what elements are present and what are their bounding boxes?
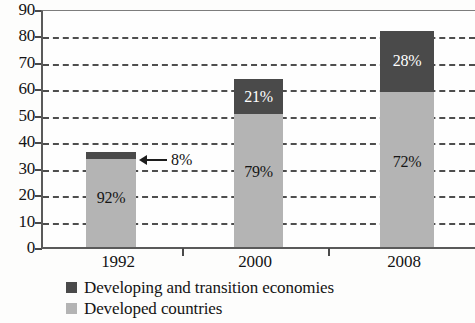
annotation-8-percent: 8% (139, 152, 192, 168)
bar-value-label: 79% (234, 164, 283, 180)
stacked-bar-chart: 90 80 70 60 50 40 30 20 (0, 0, 475, 323)
y-axis-tick-label: 90 (3, 1, 35, 18)
bar-1992[interactable]: 92% (86, 152, 136, 249)
legend-swatch-icon (66, 303, 77, 314)
x-axis-tick (182, 248, 184, 256)
x-axis-line (41, 247, 475, 249)
bar-segment-developing-2008[interactable]: 28% (380, 31, 434, 92)
legend-swatch-icon (66, 282, 77, 293)
x-axis-tick (328, 248, 330, 256)
y-axis-tick-label: 40 (3, 133, 35, 150)
x-axis-label-2008: 2008 (345, 252, 463, 272)
annotation-label: 8% (171, 152, 192, 168)
y-axis-tick-label: 50 (3, 107, 35, 124)
x-axis-label-2000: 2000 (196, 252, 314, 272)
legend-item-label: Developing and transition economies (84, 278, 334, 297)
bar-value-label: 92% (86, 190, 136, 206)
bar-segment-developed-1992[interactable]: 92% (86, 159, 136, 248)
x-axis-label-1992: 1992 (59, 252, 177, 272)
y-axis-tick-label: 30 (3, 160, 35, 177)
bar-segment-developed-2000[interactable]: 79% (234, 114, 283, 248)
legend-item-label: Developed countries (84, 299, 222, 318)
bar-value-label: 21% (234, 89, 283, 105)
y-axis-tick-label: 20 (3, 186, 35, 203)
plot-area: 92% 21% 79% 28% 72% 8% (41, 10, 475, 248)
bar-2000[interactable]: 21% 79% (234, 79, 283, 248)
y-axis-tick-label: 70 (3, 54, 35, 71)
bar-segment-developing-2000[interactable]: 21% (234, 79, 283, 114)
y-axis-tick-label: 10 (3, 213, 35, 230)
bar-2008[interactable]: 28% 72% (380, 31, 434, 248)
arrow-left-icon (139, 155, 167, 165)
bar-value-label: 28% (380, 53, 434, 69)
bar-value-label: 72% (380, 154, 434, 170)
bar-segment-developing-1992[interactable] (86, 152, 136, 160)
legend-item-developing[interactable]: Developing and transition economies (66, 277, 334, 298)
y-axis-tick-label: 80 (3, 27, 35, 44)
bar-segment-developed-2008[interactable]: 72% (380, 92, 434, 248)
y-axis-tick-label: 60 (3, 80, 35, 97)
legend: Developing and transition economies Deve… (66, 277, 334, 319)
y-axis-tick-label: 0 (3, 239, 35, 256)
legend-item-developed[interactable]: Developed countries (66, 298, 334, 319)
